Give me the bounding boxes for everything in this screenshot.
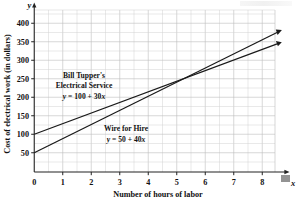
x-tick-label-4: 4 (146, 178, 150, 187)
y-tick-label-250: 250 (17, 75, 29, 84)
x-tick-label-6: 6 (203, 178, 207, 187)
line-chart-svg: 50 100 150 200 250 300 350 400 0 1 2 3 4… (0, 0, 303, 200)
scan-artifact-corner (281, 175, 290, 182)
chart-figure: 50 100 150 200 250 300 350 400 0 1 2 3 4… (0, 0, 303, 200)
y-tick-label-300: 300 (17, 56, 29, 65)
y-axis-arrowhead (32, 3, 36, 8)
y-axis-variable-label: y (27, 0, 32, 10)
x-axis-variable-label: x (290, 178, 296, 188)
x-axis-arrowhead (284, 170, 289, 174)
equation-mid-tupper: = 100 + 30 (66, 92, 101, 101)
annotation-bill-tuppers-line1: Bill Tupper's (63, 71, 105, 80)
y-tick-label-50: 50 (21, 149, 29, 158)
equation-x-wire: x (141, 135, 146, 144)
y-tick-label-200: 200 (17, 93, 29, 102)
y-tick-label-400: 400 (17, 19, 29, 28)
x-tick-label-3: 3 (118, 178, 122, 187)
x-tick-label-1: 1 (61, 178, 65, 187)
equation-x-tupper: x (100, 92, 105, 101)
y-tick-label-100: 100 (17, 130, 29, 139)
x-tick-label-5: 5 (175, 178, 179, 187)
equation-mid-wire: = 50 + 40 (110, 135, 142, 144)
y-axis-title: Cost of electrical work (in dollars) (3, 34, 12, 154)
x-tick-label-7: 7 (232, 178, 236, 187)
x-tick-label-2: 2 (89, 178, 93, 187)
annotation-bill-tuppers-line2: Electrical Service (56, 81, 113, 90)
y-tick-label-350: 350 (17, 38, 29, 47)
x-axis-title: Number of hours of labor (113, 190, 203, 199)
scan-artifact (240, 1, 292, 6)
y-tick-label-150: 150 (17, 112, 29, 121)
annotation-wire-for-hire-equation: y = 50 + 40x (106, 135, 146, 144)
annotation-bill-tuppers-equation: y = 100 + 30x (62, 92, 106, 101)
x-tick-label-0: 0 (32, 178, 36, 187)
x-tick-label-8: 8 (260, 178, 264, 187)
annotation-wire-for-hire-line1: Wire for Hire (104, 124, 149, 133)
series-arrowhead-wire-for-hire (276, 30, 282, 35)
